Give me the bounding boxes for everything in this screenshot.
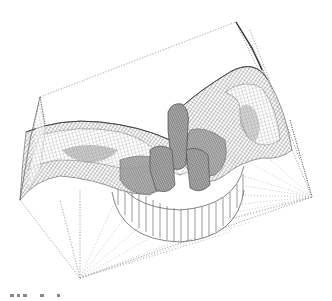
wireframe-render (0, 0, 332, 301)
render-canvas (0, 0, 332, 301)
bottom-marks (10, 294, 60, 297)
